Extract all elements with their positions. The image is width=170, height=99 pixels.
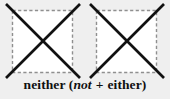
square-right-group [90,4,164,78]
caption-close-paren: ) [142,77,147,92]
square-left-group [6,4,80,78]
caption-word: neither [24,77,66,92]
figure-container: neither (not + either) [0,0,170,99]
caption-operator: + [95,77,104,92]
caption-term-plain: either [107,77,141,92]
figure-caption: neither (not + either) [0,76,170,93]
crossed-squares-svg [0,0,170,80]
caption-term-italic: not [73,77,91,92]
diagram-area [0,0,170,80]
